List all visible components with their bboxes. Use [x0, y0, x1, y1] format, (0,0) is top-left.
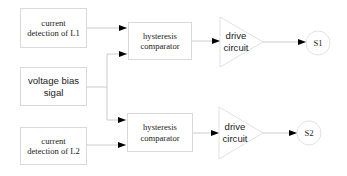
voltage-bias-box: voltage bias sigal	[20, 67, 87, 106]
l1-label-line2: detection of L1	[27, 28, 80, 39]
s1-label: S1	[306, 38, 330, 48]
l2-label-line2: detection of L2	[27, 146, 80, 157]
comp2-label-line1: hysteresis	[140, 122, 179, 133]
hysteresis-comparator-2: hysteresis comparator	[127, 113, 193, 152]
block-diagram: current detection of L1 voltage bias sig…	[0, 0, 347, 176]
drive-circuit-1-label: drive circuit	[219, 30, 253, 53]
hysteresis-comparator-1: hysteresis comparator	[128, 22, 192, 60]
drv2-label-line1: drive	[218, 121, 252, 133]
current-detection-l2-box: current detection of L2	[20, 127, 87, 165]
drv2-label-line2: circuit	[218, 133, 252, 145]
drv1-label-line2: circuit	[219, 42, 253, 54]
drv1-label-line1: drive	[219, 30, 253, 42]
current-detection-l1-box: current detection of L1	[20, 8, 87, 48]
s2-label: S2	[297, 128, 321, 138]
bias-label-line2: sigal	[28, 87, 79, 99]
bias-label-line1: voltage bias	[28, 75, 79, 87]
drive-circuit-2-label: drive circuit	[218, 121, 252, 144]
comp1-label-line2: comparator	[140, 41, 179, 52]
l2-label-line1: current	[27, 136, 80, 147]
l1-label-line1: current	[27, 18, 80, 29]
comp2-label-line2: comparator	[140, 133, 179, 144]
comp1-label-line1: hysteresis	[140, 31, 179, 42]
